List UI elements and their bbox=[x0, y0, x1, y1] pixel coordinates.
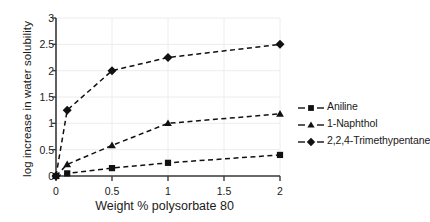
legend-label: Aniline bbox=[327, 100, 358, 112]
data-point bbox=[164, 53, 173, 62]
square-marker bbox=[297, 100, 327, 112]
data-point bbox=[276, 40, 285, 49]
legend-label: 1-Naphthol bbox=[327, 117, 377, 129]
gridlines bbox=[56, 18, 280, 176]
triangle-marker bbox=[297, 117, 327, 129]
legend: Aniline1-Naphthol2,2,4-Trimethypentane bbox=[297, 97, 429, 148]
legend-label: 2,2,4-Trimethypentane bbox=[327, 134, 430, 146]
data-point bbox=[276, 110, 284, 117]
data-point bbox=[109, 165, 115, 171]
data-point bbox=[277, 152, 283, 158]
solubility-line-chart: log increase in water solubility Weight … bbox=[0, 0, 430, 222]
diamond-marker bbox=[297, 134, 327, 146]
legend-item: 2,2,4-Trimethypentane bbox=[297, 131, 429, 148]
legend-item: Aniline bbox=[297, 97, 429, 114]
data-point bbox=[165, 160, 171, 166]
data-point bbox=[64, 170, 70, 176]
data-point bbox=[108, 142, 116, 149]
legend-item: 1-Naphthol bbox=[297, 114, 429, 131]
